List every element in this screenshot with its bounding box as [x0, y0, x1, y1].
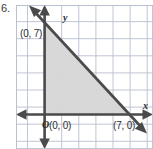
problem-number: 6.: [1, 2, 10, 14]
label-x-intercept: (7, 0): [113, 121, 135, 131]
label-y-axis: y: [63, 13, 67, 23]
coordinate-graph: (0, 7) (0, 0) (7, 0) O x y: [16, 5, 153, 149]
label-origin-letter: O: [42, 120, 49, 130]
label-y-intercept: (0, 7): [20, 29, 42, 39]
label-x-axis: x: [143, 101, 148, 111]
graph-figure: 6.: [0, 0, 153, 149]
label-origin-point: (0, 0): [49, 121, 71, 131]
